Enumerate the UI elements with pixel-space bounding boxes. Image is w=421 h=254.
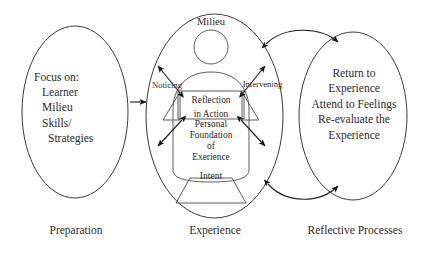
figure-head (194, 30, 228, 64)
preparation-line-4: Skills/ (22, 116, 128, 131)
arrow-radiate-lower-right (241, 120, 265, 146)
noticing-label: Noticing (147, 81, 187, 91)
preparation-text-block: Focus on: Learner Milieu Skills/ Strateg… (22, 70, 128, 146)
reflective-processes-text-block: Return to Experience Attend to Feelings … (294, 66, 414, 143)
foundation-line-2: Foundation (178, 130, 244, 141)
reflective-line-1: Return to (294, 66, 414, 81)
intent-label: Intent (186, 171, 236, 182)
preparation-line-2: Learner (22, 85, 128, 100)
reflection-line-1: Reflection (181, 94, 241, 108)
preparation-line-1: Focus on: (22, 70, 128, 85)
caption-experience: Experience (165, 224, 265, 236)
preparation-line-3: Milieu (22, 100, 128, 115)
personal-foundation-label: Personal Foundation of Exerience (178, 119, 244, 163)
figure-right-arm (242, 92, 259, 120)
foundation-line-4: Exerience (178, 152, 244, 163)
foundation-line-3: of (178, 141, 244, 152)
reflective-line-4: Re-evaluate the (294, 112, 414, 127)
caption-reflective-processes: Reflective Processes (290, 224, 420, 236)
foundation-line-1: Personal (178, 119, 244, 130)
caption-preparation: Preparation (26, 224, 126, 236)
reflective-line-5: Experience (294, 128, 414, 143)
diagram-canvas: Focus on: Learner Milieu Skills/ Strateg… (0, 0, 421, 254)
figure-left-arm (163, 92, 180, 120)
reflective-line-2: Experience (294, 81, 414, 96)
reflective-line-3: Attend to Feelings (294, 97, 414, 112)
intervening-label: Intervening (240, 80, 285, 90)
preparation-line-5: Strategies (22, 131, 128, 146)
arrow-experience-reflective-bottom (268, 184, 338, 199)
reflection-in-action-label: Reflection in Action (181, 94, 241, 121)
milieu-label: Milieu (186, 16, 236, 28)
